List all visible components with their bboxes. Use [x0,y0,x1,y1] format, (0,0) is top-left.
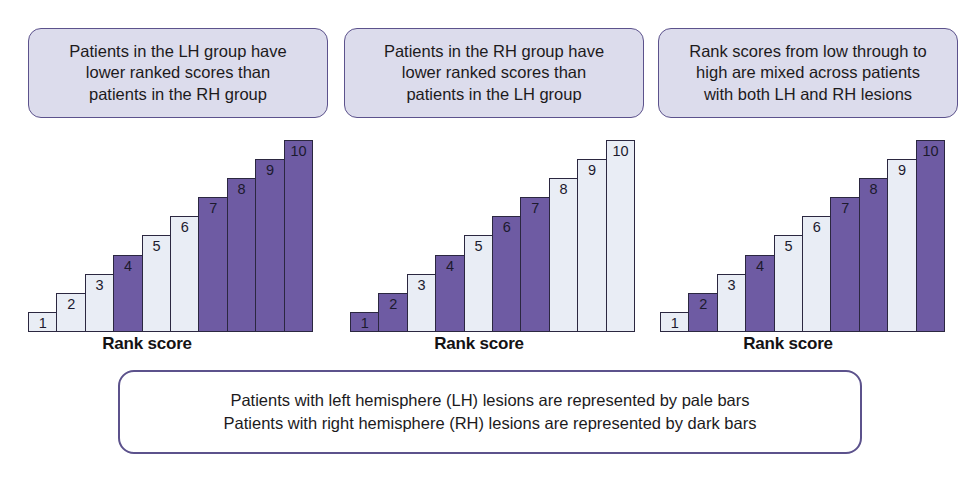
bar-rank-7: 7 [520,197,550,332]
bar-rank-1: 1 [350,312,380,332]
bar-rank-6: 6 [492,216,522,332]
bar-label: 5 [152,239,160,254]
bar-label: 7 [841,201,849,216]
bar-label: 7 [209,201,217,216]
bar-chart-lh-lower: 12345678910 Rank score [28,140,324,356]
bar-rank-1: 1 [28,312,58,332]
bar-label: 2 [389,297,397,312]
bar-rank-9: 9 [255,159,285,332]
caption-text: Patients in the LH group have lower rank… [69,41,286,104]
caption-line: patients in the RH group [69,84,286,105]
caption-line: with both LH and RH lesions [689,84,927,105]
bar-rank-6: 6 [170,216,200,332]
bar-rank-5: 5 [774,235,804,332]
bar-label: 6 [181,220,189,235]
bar-label: 1 [671,316,679,331]
bar-rank-2: 2 [56,293,86,332]
legend-line-dark: Patients with right hemisphere (RH) lesi… [224,412,757,435]
bar-rank-3: 3 [407,274,437,332]
bar-label: 5 [474,239,482,254]
bar-rank-4: 4 [113,255,143,332]
bar-label: 4 [756,259,764,274]
bar-label: 1 [361,316,369,331]
caption-line: lower ranked scores than [384,62,604,83]
bar-rank-3: 3 [717,274,747,332]
bar-label: 3 [96,278,104,293]
bar-rank-4: 4 [745,255,775,332]
bar-rank-8: 8 [549,178,579,332]
x-axis-title: Rank score [660,334,956,354]
caption-box-mixed: Rank scores from low through to high are… [658,28,958,118]
plot-area: 12345678910 [660,140,956,332]
caption-box-lh-lower: Patients in the LH group have lower rank… [28,28,328,118]
bar-label: 5 [784,239,792,254]
bar-rank-6: 6 [802,216,832,332]
caption-text: Patients in the RH group have lower rank… [384,41,604,104]
bar-rank-4: 4 [435,255,465,332]
bar-rank-3: 3 [85,274,115,332]
bar-rank-5: 5 [464,235,494,332]
bar-label: 10 [290,144,306,159]
caption-line: high are mixed across patients [689,62,927,83]
caption-box-rh-lower: Patients in the RH group have lower rank… [344,28,644,118]
bar-rank-2: 2 [688,293,718,332]
bar-chart-rh-lower: 12345678910 Rank score [350,140,646,356]
caption-text: Rank scores from low through to high are… [689,41,927,104]
caption-line: Patients in the LH group have [69,41,286,62]
bar-rank-10: 10 [916,140,946,332]
caption-line: Patients in the RH group have [384,41,604,62]
x-axis-title: Rank score [350,334,646,354]
bar-rank-8: 8 [859,178,889,332]
bar-label: 10 [922,144,938,159]
bar-rank-7: 7 [830,197,860,332]
bar-label: 8 [560,182,568,197]
bar-label: 9 [588,163,596,178]
bar-chart-mixed: 12345678910 Rank score [660,140,956,356]
bar-label: 9 [266,163,274,178]
bar-label: 9 [898,163,906,178]
bar-label: 3 [418,278,426,293]
bar-rank-1: 1 [660,312,690,332]
bar-label: 4 [124,259,132,274]
bar-rank-9: 9 [887,159,917,332]
bar-rank-7: 7 [198,197,228,332]
bar-label: 8 [238,182,246,197]
legend-line-pale: Patients with left hemisphere (LH) lesio… [230,389,749,412]
bar-rank-9: 9 [577,159,607,332]
bar-rank-8: 8 [227,178,257,332]
bar-label: 4 [446,259,454,274]
bar-label: 2 [67,297,75,312]
bar-label: 7 [531,201,539,216]
bar-label: 8 [870,182,878,197]
bar-label: 2 [699,297,707,312]
plot-area: 12345678910 [28,140,324,332]
bar-label: 3 [728,278,736,293]
caption-line: patients in the LH group [384,84,604,105]
legend-box: Patients with left hemisphere (LH) lesio… [118,370,862,454]
bar-label: 1 [39,316,47,331]
plot-area: 12345678910 [350,140,646,332]
bar-rank-2: 2 [378,293,408,332]
bar-label: 10 [612,144,628,159]
x-axis-title: Rank score [28,334,324,354]
bar-rank-10: 10 [606,140,636,332]
bar-label: 6 [813,220,821,235]
bar-rank-10: 10 [284,140,314,332]
caption-line: Rank scores from low through to [689,41,927,62]
caption-line: lower ranked scores than [69,62,286,83]
bar-label: 6 [503,220,511,235]
bar-rank-5: 5 [142,235,172,332]
